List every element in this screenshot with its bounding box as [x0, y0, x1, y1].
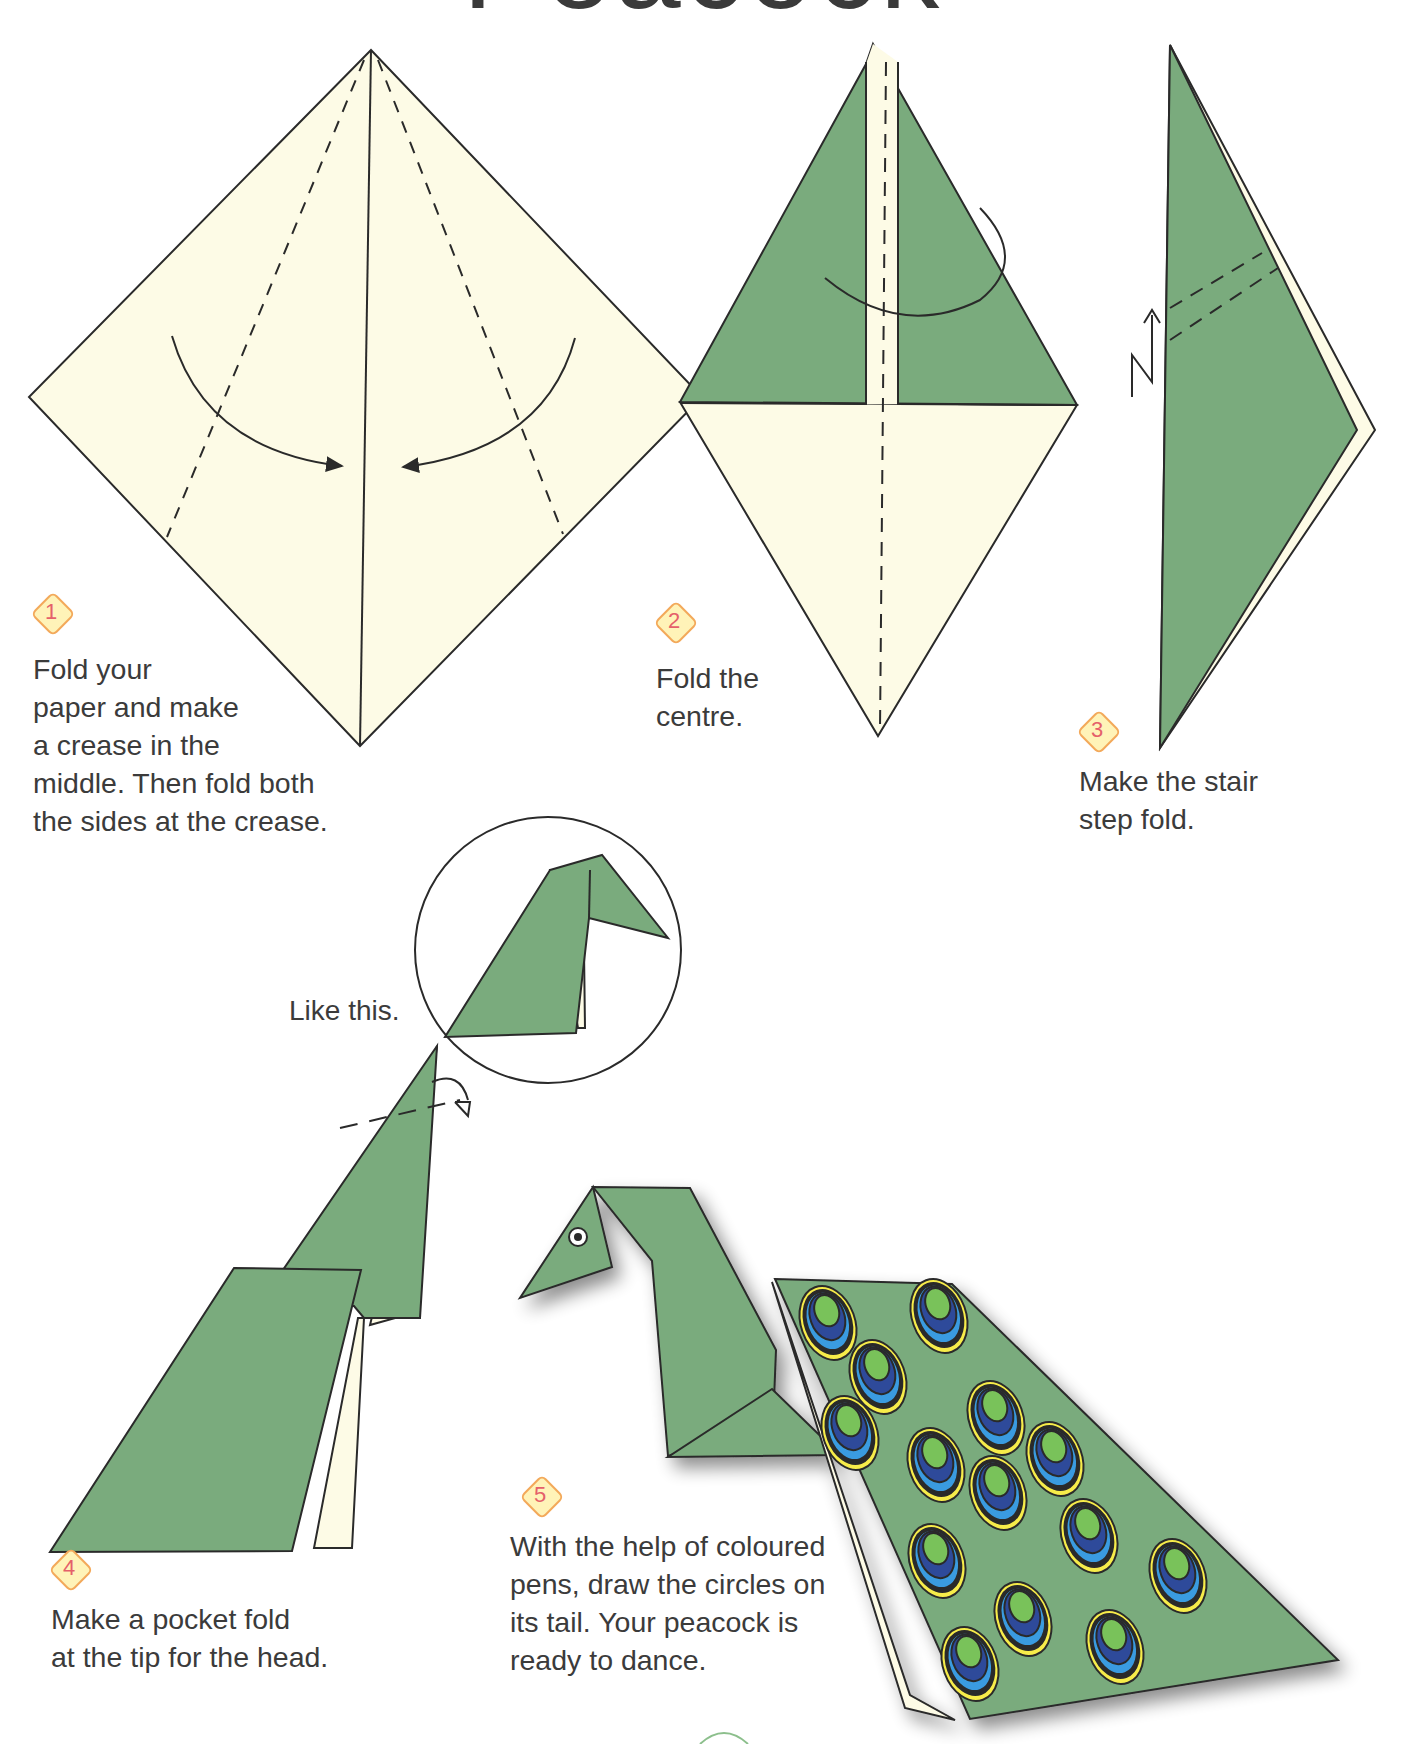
peacock-eye-icon: [569, 1228, 587, 1246]
step4-diagram: [50, 817, 681, 1552]
origami-diagrams: [0, 0, 1406, 1744]
step-instruction: Make a pocket fold at the tip for the he…: [51, 1600, 328, 1676]
step-instruction: Fold your paper and make a crease in the…: [33, 650, 328, 840]
step3-diagram: [1132, 45, 1375, 748]
page-footer-circle: [700, 1733, 748, 1744]
step-number-badge: 2: [654, 601, 694, 641]
step-number-badge: 1: [31, 592, 71, 632]
step2-diagram: [680, 44, 1077, 736]
like-this-callout: Like this.: [289, 995, 400, 1027]
step-number-badge: 4: [49, 1548, 89, 1588]
step-number-badge: 3: [1077, 710, 1117, 750]
step-instruction: Fold the centre.: [656, 659, 759, 735]
step-number-badge: 5: [520, 1475, 560, 1515]
step1-diagram: [29, 50, 702, 746]
step-instruction: Make the stair step fold.: [1079, 762, 1258, 838]
step-instruction: With the help of coloured pens, draw the…: [510, 1527, 825, 1679]
